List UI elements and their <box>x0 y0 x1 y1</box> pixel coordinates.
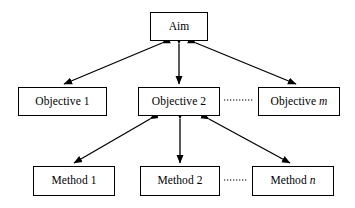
node-method-2[interactable]: Method 2 <box>140 166 220 196</box>
node-aim[interactable]: Aim <box>150 12 208 41</box>
diagram-canvas: Aim Objective 1 Objective 2 Objective m … <box>0 0 355 208</box>
node-method-1-label: Method 1 <box>51 175 96 187</box>
node-objective-1[interactable]: Objective 1 <box>18 87 107 116</box>
node-objective-m-variable: m <box>319 95 327 107</box>
node-objective-2[interactable]: Objective 2 <box>138 87 220 116</box>
node-method-n-variable: n <box>310 174 316 186</box>
connector-aim-to-objective-m <box>196 43 296 84</box>
node-method-n-label: Method n <box>270 175 315 187</box>
connector-aim-to-objective-1 <box>64 43 162 84</box>
node-objective-2-label: Objective 2 <box>152 96 206 108</box>
node-method-n-text: Method <box>270 174 309 186</box>
node-objective-m[interactable]: Objective m <box>258 87 340 116</box>
node-objective-m-label: Objective m <box>271 96 328 108</box>
node-objective-m-text: Objective <box>271 95 320 107</box>
connector-objective-2-to-method-1 <box>74 119 150 163</box>
connector-objective-2-to-method-n <box>209 119 290 163</box>
node-method-2-label: Method 2 <box>157 175 202 187</box>
node-objective-1-label: Objective 1 <box>35 96 89 108</box>
node-method-n[interactable]: Method n <box>252 166 334 196</box>
node-method-1[interactable]: Method 1 <box>33 166 115 196</box>
node-aim-label: Aim <box>169 21 190 33</box>
